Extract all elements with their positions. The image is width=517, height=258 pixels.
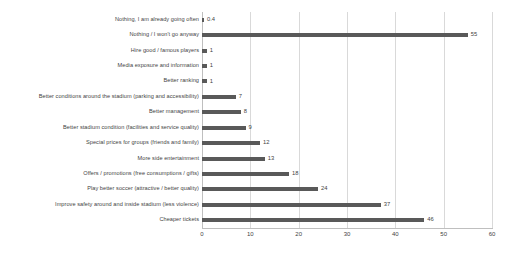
bar-value-label: 9	[249, 125, 252, 131]
bar-with-value: 0.4	[202, 18, 215, 22]
bar-row: Better stadium condition (facilities and…	[0, 120, 517, 135]
bar-value-label: 1	[210, 63, 213, 69]
bar-value-label: 13	[268, 156, 274, 162]
bar-value-label: 55	[471, 32, 477, 38]
category-label: Better stadium condition (facilities and…	[63, 125, 199, 131]
bar	[202, 157, 265, 161]
category-label: Nothing / I won't go anyway	[129, 32, 199, 38]
bar-row: Nothing / I won't go anyway55	[0, 27, 517, 42]
bar-row: Special prices for groups (friends and f…	[0, 135, 517, 150]
bar-with-value: 1	[202, 64, 213, 68]
x-tick-label-50: 50	[440, 231, 447, 237]
bar-value-label: 7	[239, 94, 242, 100]
bar	[202, 64, 207, 68]
bar	[202, 33, 468, 37]
bar-row: Hire good / famous players1	[0, 43, 517, 58]
bar-with-value: 24	[202, 187, 327, 191]
bar-with-value: 46	[202, 218, 434, 222]
category-label: Better ranking	[163, 79, 199, 85]
bar	[202, 79, 207, 83]
x-tick-label-20: 20	[295, 231, 302, 237]
x-tick-label-30: 30	[344, 231, 351, 237]
bar-row: Cheaper tickets46	[0, 212, 517, 227]
bar-row: Better conditions around the stadium (pa…	[0, 89, 517, 104]
bar	[202, 95, 236, 99]
category-label: Nothing, I am already going often	[115, 17, 199, 23]
x-tick-label-10: 10	[247, 231, 254, 237]
bar-rows: Nothing, I am already going often0.4Noth…	[0, 12, 517, 228]
bar-chart: Nothing, I am already going often0.4Noth…	[0, 0, 517, 258]
category-label: More side entertainment	[138, 156, 199, 162]
bar-value-label: 24	[321, 186, 327, 192]
bar-with-value: 7	[202, 95, 242, 99]
bar-with-value: 12	[202, 141, 269, 145]
category-label: Improve safety around and inside stadium…	[55, 202, 199, 208]
bar-with-value: 9	[202, 126, 252, 130]
bar-value-label: 18	[292, 171, 298, 177]
bar	[202, 49, 207, 53]
bar-with-value: 55	[202, 33, 477, 37]
bar	[202, 203, 381, 207]
category-label: Media exposure and information	[118, 63, 199, 69]
bar	[202, 218, 424, 222]
category-label: Better conditions around the stadium (pa…	[39, 94, 199, 100]
bar-row: Media exposure and information1	[0, 58, 517, 73]
bar-with-value: 37	[202, 203, 390, 207]
x-axis-tick-labels: 0102030405060	[202, 231, 493, 245]
bar	[202, 187, 318, 191]
bar	[202, 126, 246, 130]
x-tick-label-40: 40	[392, 231, 399, 237]
bar	[202, 141, 260, 145]
bar	[202, 110, 241, 114]
category-label: Offers / promotions (free consumptions /…	[83, 171, 199, 177]
bar-row: Play better soccer (attractive / better …	[0, 182, 517, 197]
category-label: Play better soccer (attractive / better …	[87, 187, 199, 193]
bar-value-label: 46	[427, 217, 433, 223]
bar-row: Better ranking1	[0, 74, 517, 89]
x-tick-label-60: 60	[489, 231, 496, 237]
bar-row: Nothing, I am already going often0.4	[0, 12, 517, 27]
bar-value-label: 1	[210, 79, 213, 85]
bar-with-value: 18	[202, 172, 298, 176]
bar-with-value: 1	[202, 49, 213, 53]
category-label: Better management	[149, 109, 199, 115]
bar-row: Better management8	[0, 105, 517, 120]
bar	[202, 18, 204, 22]
category-label: Hire good / famous players	[131, 48, 199, 54]
bar-with-value: 8	[202, 110, 247, 114]
category-label: Special prices for groups (friends and f…	[86, 140, 199, 146]
category-label: Cheaper tickets	[159, 217, 199, 223]
x-axis-line	[202, 228, 493, 229]
bar-with-value: 1	[202, 79, 213, 83]
bar	[202, 172, 289, 176]
bar-value-label: 1	[210, 48, 213, 54]
bar-row: More side entertainment13	[0, 151, 517, 166]
bar-row: Improve safety around and inside stadium…	[0, 197, 517, 212]
bar-value-label: 0.4	[207, 17, 215, 23]
bar-row: Offers / promotions (free consumptions /…	[0, 166, 517, 181]
bar-with-value: 13	[202, 157, 274, 161]
bar-value-label: 12	[263, 140, 269, 146]
bar-value-label: 37	[384, 202, 390, 208]
bar-value-label: 8	[244, 109, 247, 115]
x-tick-label-0: 0	[200, 231, 203, 237]
